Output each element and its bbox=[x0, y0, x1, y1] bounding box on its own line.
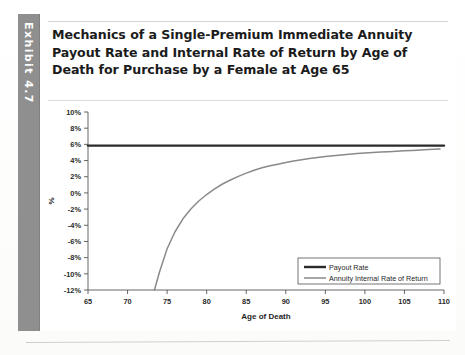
y-tick-label: -8% bbox=[68, 253, 82, 262]
x-tick-label: 80 bbox=[203, 297, 211, 306]
x-tick-label: 85 bbox=[242, 297, 250, 306]
y-tick-label: 10% bbox=[66, 108, 81, 117]
chart-svg: 10%8%6%4%2%0%-2%-4%-6%-8%-10%-12% 657075… bbox=[44, 104, 452, 326]
y-tick-label: -10% bbox=[64, 270, 82, 279]
y-tick-label: -4% bbox=[68, 221, 82, 230]
chart-figure: 10%8%6%4%2%0%-2%-4%-6%-8%-10%-12% 657075… bbox=[44, 104, 452, 326]
y-tick-label: -12% bbox=[64, 286, 82, 295]
chart-legend: Payout RateAnnuity Internal Rate of Retu… bbox=[298, 258, 440, 284]
x-axis-ticks bbox=[88, 290, 444, 294]
y-tick-label: -2% bbox=[68, 205, 82, 214]
x-tick-label: 70 bbox=[123, 297, 131, 306]
y-tick-label: 6% bbox=[70, 140, 81, 149]
x-tick-label: 65 bbox=[84, 297, 92, 306]
header-rule-bottom bbox=[48, 100, 448, 101]
x-tick-label: 75 bbox=[163, 297, 171, 306]
x-axis-title: Age of Death bbox=[241, 312, 290, 321]
y-axis-ticks bbox=[84, 112, 88, 290]
y-tick-label: 0% bbox=[70, 189, 81, 198]
y-axis-tick-labels: 10%8%6%4%2%0%-2%-4%-6%-8%-10%-12% bbox=[64, 108, 82, 295]
x-axis-tick-labels: 65707580859095100105110 bbox=[84, 297, 450, 306]
x-tick-label: 100 bbox=[359, 297, 371, 306]
page-bottom-rule bbox=[26, 340, 450, 343]
exhibit-tab-label: Exhibit 4.7 bbox=[22, 22, 35, 104]
x-tick-label: 105 bbox=[398, 297, 410, 306]
legend-label-0: Payout Rate bbox=[329, 263, 369, 272]
exhibit-content: Mechanics of a Single-Premium Immediate … bbox=[40, 14, 456, 331]
y-tick-label: 2% bbox=[70, 172, 81, 181]
y-tick-label: -6% bbox=[68, 237, 82, 246]
exhibit-tab-inner: Exhibit 4.7 bbox=[18, 14, 40, 331]
exhibit-title: Mechanics of a Single-Premium Immediate … bbox=[52, 26, 448, 79]
x-tick-label: 90 bbox=[282, 297, 290, 306]
x-tick-label: 95 bbox=[321, 297, 329, 306]
y-tick-label: 4% bbox=[70, 156, 81, 165]
exhibit-page: Exhibit 4.7 Mechanics of a Single-Premiu… bbox=[0, 0, 465, 355]
header-rule-top bbox=[48, 21, 448, 22]
legend-label-1: Annuity Internal Rate of Return bbox=[329, 274, 428, 283]
exhibit-tab: Exhibit 4.7 bbox=[18, 14, 40, 331]
y-tick-label: 8% bbox=[70, 124, 81, 133]
x-tick-label: 110 bbox=[438, 297, 450, 306]
y-axis-title: % bbox=[47, 197, 56, 204]
